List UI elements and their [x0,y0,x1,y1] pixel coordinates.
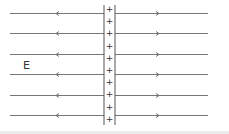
plus-charge-icon: + [106,28,114,38]
plus-charge-icon: + [106,41,114,51]
plus-charge-icon: + [106,102,114,112]
plus-charge-icon: + [106,89,114,99]
plus-charge-icon: + [106,16,114,26]
plus-charge-icon: + [106,114,114,124]
charged-sheet: ++++++++++ [104,4,115,125]
plus-charge-icon: + [106,4,114,14]
charge-symbols: ++++++++++ [106,4,114,124]
plus-charge-icon: + [106,53,114,63]
plus-charge-icon: + [106,77,114,87]
plus-charge-icon: + [106,65,114,75]
bottom-border [0,131,229,134]
field-label-e: E [23,59,30,72]
field-diagram: ++++++++++ E [0,0,229,134]
